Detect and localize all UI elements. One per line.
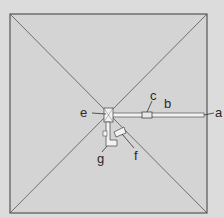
label-c: c <box>150 88 157 103</box>
pyramid-plan-diagram: a b c e f g <box>0 0 224 218</box>
feature-c <box>142 112 152 118</box>
label-f: f <box>134 148 138 163</box>
label-e: e <box>80 105 87 120</box>
passage-b <box>112 113 204 117</box>
label-a: a <box>215 105 223 120</box>
feature-small-block <box>103 131 107 136</box>
label-g: g <box>97 151 104 166</box>
label-b: b <box>164 96 171 111</box>
